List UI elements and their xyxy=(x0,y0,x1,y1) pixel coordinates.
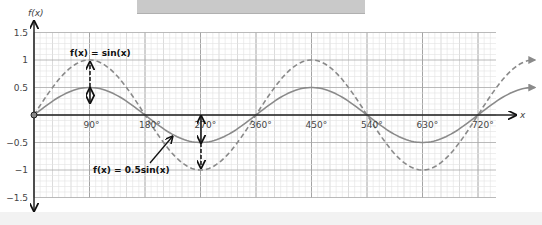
y-tick-label: −1 xyxy=(15,165,28,175)
sin-label: f(x) = sin(x) xyxy=(70,48,131,58)
x-tick-label: 450° xyxy=(306,120,328,130)
y-tick-label: 1 xyxy=(22,55,28,65)
half-sin-label: f(x) = 0.5sin(x) xyxy=(93,165,170,175)
x-tick-label: 540° xyxy=(361,120,383,130)
y-tick-label: −0.5 xyxy=(6,138,28,148)
x-axis-label: x xyxy=(519,110,526,120)
x-tick-label: 630° xyxy=(417,120,439,130)
x-tick-label: 270° xyxy=(195,120,217,130)
y-tick-label: 0.5 xyxy=(14,83,28,93)
origin-marker xyxy=(31,112,37,118)
x-tick-label: 90° xyxy=(84,120,100,130)
x-tick-label: 720° xyxy=(472,120,494,130)
x-tick-label: 180° xyxy=(139,120,161,130)
sine-chart: 90°180°270°360°450°540°630°720°1.510.5−0… xyxy=(0,0,542,225)
x-tick-label: 360° xyxy=(250,120,272,130)
y-tick-label: −1.5 xyxy=(6,193,28,203)
y-axis-label: f(x) xyxy=(28,8,44,18)
y-tick-label: 1.5 xyxy=(14,28,28,38)
